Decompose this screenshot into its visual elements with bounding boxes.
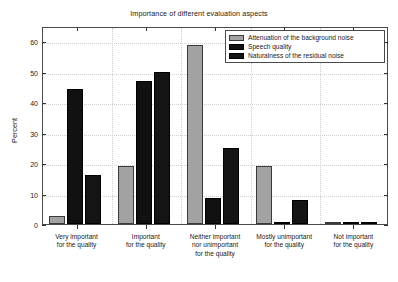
x-axis-tick-label-line: for the quality	[173, 250, 257, 258]
gridline-horizontal	[43, 74, 387, 75]
x-axis-tick-mark	[284, 225, 285, 229]
y-axis-tick-label: 0	[34, 222, 38, 229]
bar	[154, 72, 170, 224]
gridline-horizontal	[43, 165, 387, 166]
x-axis-tick-label-line: for the quality	[311, 241, 395, 249]
x-axis-tick-mark	[77, 27, 78, 31]
y-axis-tick-mark	[384, 225, 388, 226]
bar	[118, 166, 134, 224]
legend-item: Speech quality	[229, 42, 381, 51]
y-axis-tick-mark	[42, 225, 46, 226]
bar	[361, 222, 377, 224]
x-axis-tick-label-line: Not important	[311, 233, 395, 241]
bar	[205, 198, 221, 224]
x-axis-tick-mark	[215, 225, 216, 229]
y-axis-tick-mark	[384, 164, 388, 165]
legend-label: Speech quality	[248, 43, 291, 50]
y-axis-tick-mark	[384, 73, 388, 74]
y-axis-tick-mark	[42, 164, 46, 165]
y-axis-tick-mark	[384, 103, 388, 104]
y-axis-tick-label: 50	[30, 69, 38, 76]
legend-label: Naturalness of the residual noise	[248, 52, 344, 59]
x-axis-tick-mark	[215, 27, 216, 31]
legend-swatch-icon	[229, 44, 244, 50]
bar	[256, 166, 272, 224]
chart-legend: Attenuation of the background noiseSpeec…	[225, 30, 385, 63]
y-axis-tick-label: 60	[30, 39, 38, 46]
y-axis-tick-labels: 0102030405060	[0, 0, 38, 282]
bar	[85, 175, 101, 224]
gridline-vertical	[112, 28, 113, 224]
legend-label: Attenuation of the background noise	[248, 34, 354, 41]
x-axis-tick-mark	[77, 225, 78, 229]
bar	[223, 148, 239, 224]
y-axis-tick-mark	[42, 134, 46, 135]
gridline-vertical	[181, 28, 182, 224]
bar	[49, 216, 65, 224]
x-axis-tick-mark	[146, 225, 147, 229]
y-axis-tick-mark	[42, 195, 46, 196]
gridline-horizontal	[43, 104, 387, 105]
y-axis-tick-label: 10	[30, 191, 38, 198]
chart-title: Importance of different evaluation aspec…	[0, 9, 398, 18]
gridline-horizontal	[43, 135, 387, 136]
legend-swatch-icon	[229, 35, 244, 41]
bar	[343, 222, 359, 224]
y-axis-tick-mark	[42, 42, 46, 43]
bar	[187, 45, 203, 224]
y-axis-tick-mark	[384, 134, 388, 135]
y-axis-tick-label: 30	[30, 130, 38, 137]
bar	[67, 89, 83, 224]
legend-item: Naturalness of the residual noise	[229, 51, 381, 60]
bar	[292, 200, 308, 224]
y-axis-tick-label: 20	[30, 161, 38, 168]
y-axis-tick-mark	[42, 103, 46, 104]
y-axis-label: Percent	[10, 101, 19, 161]
legend-item: Attenuation of the background noise	[229, 33, 381, 42]
bar	[136, 81, 152, 224]
y-axis-tick-mark	[42, 73, 46, 74]
x-axis-tick-label: Not importantfor the quality	[311, 233, 395, 250]
y-axis-tick-mark	[384, 195, 388, 196]
chart-figure: Importance of different evaluation aspec…	[0, 0, 398, 282]
legend-swatch-icon	[229, 53, 244, 59]
x-axis-tick-mark	[353, 225, 354, 229]
x-axis-tick-mark	[146, 27, 147, 31]
y-axis-tick-label: 40	[30, 100, 38, 107]
bar	[274, 222, 290, 224]
bar	[325, 222, 341, 224]
